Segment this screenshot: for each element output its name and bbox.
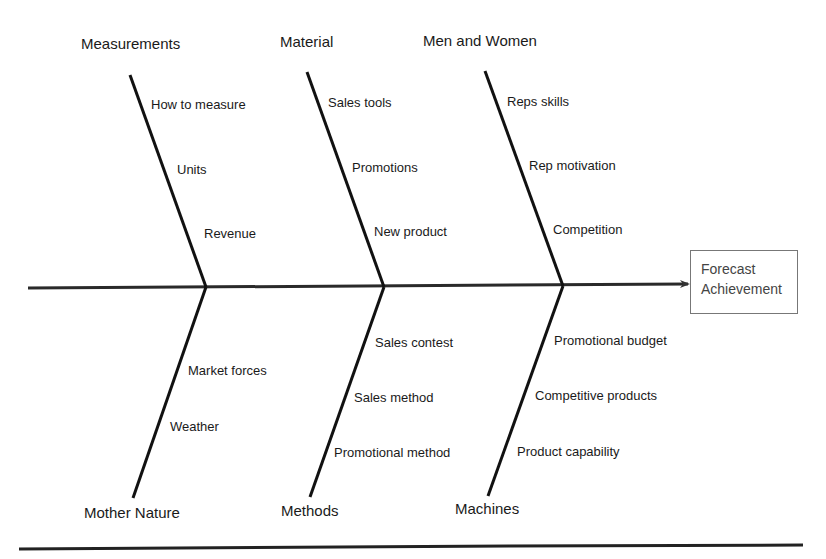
cause-units: Units: [177, 162, 207, 177]
effect-label-line1: Forecast: [701, 259, 797, 279]
effect-box: Forecast Achievement: [690, 250, 798, 314]
category-methods: Methods: [281, 502, 339, 519]
category-men-and-women: Men and Women: [423, 32, 537, 49]
bone-mother-nature: [133, 287, 206, 498]
cause-how-to-measure: How to measure: [151, 97, 246, 112]
bottom-rule-end: [509, 545, 803, 546]
cause-sales-method: Sales method: [354, 390, 434, 405]
cause-reps-skills: Reps skills: [507, 94, 569, 109]
bottom-rule: [19, 546, 509, 549]
category-mother-nature: Mother Nature: [84, 504, 180, 521]
cause-market-forces: Market forces: [188, 363, 267, 378]
cause-new-product: New product: [374, 224, 447, 239]
cause-product-capability: Product capability: [517, 444, 620, 459]
category-material: Material: [280, 33, 333, 50]
cause-weather: Weather: [170, 419, 219, 434]
cause-sales-tools: Sales tools: [328, 95, 392, 110]
cause-promotions: Promotions: [352, 160, 418, 175]
cause-competitive-products: Competitive products: [535, 388, 657, 403]
cause-promotional-method: Promotional method: [334, 445, 450, 460]
cause-competition: Competition: [553, 222, 622, 237]
cause-revenue: Revenue: [204, 226, 256, 241]
cause-promotional-budget: Promotional budget: [554, 333, 667, 348]
cause-sales-contest: Sales contest: [375, 335, 453, 350]
effect-label-line2: Achievement: [701, 279, 797, 299]
category-measurements: Measurements: [81, 35, 180, 52]
spine-line: [28, 284, 688, 288]
category-machines: Machines: [455, 500, 519, 517]
cause-rep-motivation: Rep motivation: [529, 158, 616, 173]
